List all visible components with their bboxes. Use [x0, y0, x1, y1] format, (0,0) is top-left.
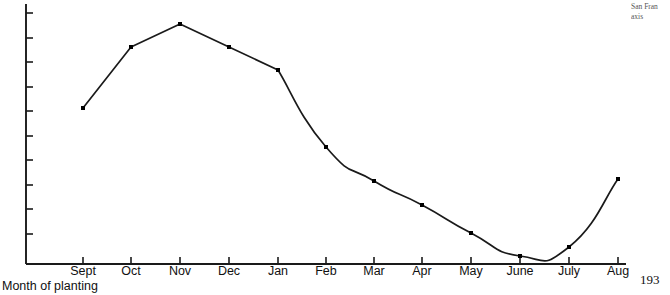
data-point-marker	[616, 177, 620, 181]
data-point-marker	[324, 145, 328, 149]
chart-series	[83, 24, 618, 261]
x-axis-tick-label: July	[558, 264, 580, 279]
data-point-marker	[81, 106, 85, 110]
x-axis-title: Month of planting	[2, 279, 98, 294]
x-axis-tick-label: Dec	[218, 264, 240, 279]
x-axis-tick-label: Mar	[363, 264, 385, 279]
corner-annotation-line-1: San Fran	[631, 2, 670, 12]
x-axis-tick-label: Oct	[121, 264, 140, 279]
data-point-marker	[276, 68, 280, 72]
x-axis-tick-label: Feb	[315, 264, 337, 279]
data-point-marker	[227, 45, 231, 49]
x-axis-tick-label: Aug	[607, 264, 629, 279]
x-axis-tick-label: Jan	[268, 264, 288, 279]
series-line-curve	[278, 70, 618, 261]
data-point-marker	[518, 254, 522, 258]
data-point-marker	[372, 179, 376, 183]
data-point-marker	[178, 22, 182, 26]
line-chart-plot	[0, 0, 670, 295]
series-line-segment	[83, 24, 278, 108]
chart-axes	[26, 4, 626, 264]
page-number: 193	[640, 272, 660, 287]
x-axis-tick-label: Apr	[412, 264, 431, 279]
data-point-marker	[469, 231, 473, 235]
chart-data-points	[81, 22, 620, 258]
x-axis-tick-label: May	[459, 264, 483, 279]
figure-root: San Fran axis SeptOctNovDecJanFebMarAprM…	[0, 0, 670, 295]
x-axis-tick-label: Nov	[169, 264, 191, 279]
data-point-marker	[420, 203, 424, 207]
x-axis-tick-label: June	[506, 264, 533, 279]
data-point-marker	[129, 45, 133, 49]
data-point-marker	[567, 245, 571, 249]
corner-annotation-line-2: axis	[631, 12, 670, 22]
x-axis-tick-label: Sept	[70, 264, 96, 279]
corner-annotation: San Fran axis	[631, 2, 670, 22]
